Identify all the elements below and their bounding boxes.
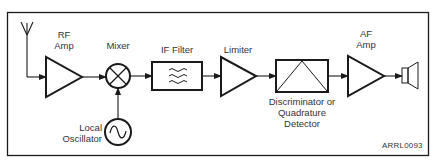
discriminator-label-line1: Discriminator or	[262, 96, 342, 107]
limiter-label: Limiter	[216, 44, 260, 55]
local-oscillator-label-line1: Local	[40, 122, 102, 133]
mixer-icon	[106, 64, 130, 88]
af-amp-label-line1: AF	[348, 28, 384, 39]
rf-amp-label-line1: RF	[46, 29, 82, 40]
rf-amp-label: RF Amp	[46, 29, 82, 51]
af-amp-triangle	[348, 56, 384, 96]
if-filter-label: IF Filter	[152, 44, 202, 55]
mixer-label: Mixer	[96, 40, 140, 51]
fm-receiver-diagram: RF Amp Mixer Local Oscillator IF Filter …	[0, 0, 437, 166]
discriminator-label-line2: Quadrature	[262, 107, 342, 118]
antenna-icon	[21, 22, 33, 77]
figure-credit: ARRL0093	[382, 141, 423, 150]
oscillator-icon	[105, 119, 131, 145]
filter-wave-icon	[169, 69, 187, 84]
limiter-triangle	[221, 57, 256, 96]
local-oscillator-label: Local Oscillator	[40, 122, 102, 144]
local-oscillator-label-line2: Oscillator	[40, 133, 102, 144]
discriminator-block	[276, 60, 328, 92]
rf-amp-label-line2: Amp	[46, 40, 82, 51]
af-amp-label: AF Amp	[348, 28, 384, 50]
discriminator-label-line3: Detector	[262, 118, 342, 129]
discriminator-label: Discriminator or Quadrature Detector	[262, 96, 342, 129]
af-amp-label-line2: Amp	[348, 39, 384, 50]
if-filter-block	[152, 62, 202, 90]
rf-amp-triangle	[46, 57, 82, 97]
speaker-icon	[402, 62, 418, 89]
